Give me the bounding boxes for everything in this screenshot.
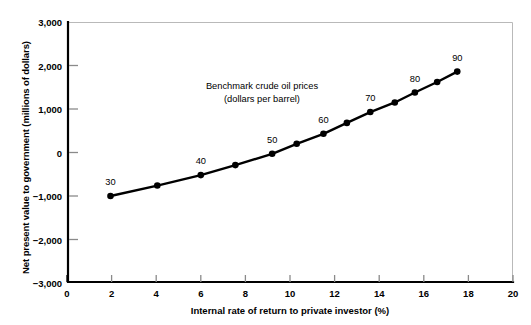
data-point-marker: [454, 68, 461, 75]
data-point-label: 40: [186, 156, 216, 166]
data-point-marker: [392, 99, 399, 106]
data-point-label: 90: [442, 53, 472, 63]
series-line: [110, 72, 457, 196]
data-point-marker: [293, 141, 300, 148]
data-point-marker: [320, 130, 327, 137]
data-point-marker: [412, 89, 419, 96]
data-point-marker: [434, 79, 441, 86]
data-point-label: 30: [96, 177, 126, 187]
data-point-marker: [232, 162, 239, 169]
plot-canvas: [0, 0, 531, 325]
data-point-label: 50: [257, 135, 287, 145]
data-point-label: 80: [400, 74, 430, 84]
data-point-marker: [269, 151, 276, 158]
data-point-label: 70: [355, 93, 385, 103]
chart-figure: Net present value to government (million…: [0, 0, 531, 325]
data-point-marker: [154, 182, 161, 189]
data-point-label: 60: [308, 115, 338, 125]
data-point-marker: [344, 120, 351, 127]
data-point-marker: [367, 109, 374, 116]
data-point-marker: [107, 193, 114, 200]
data-point-marker: [198, 172, 205, 179]
